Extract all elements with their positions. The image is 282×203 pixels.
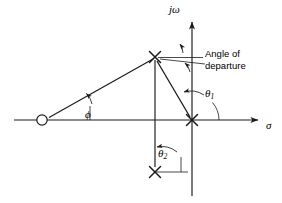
annotation-leader-line-secondary (160, 59, 205, 64)
marker-group (37, 52, 198, 178)
vector-group (49, 59, 190, 167)
diagram-canvas (0, 0, 282, 203)
theta1-arc (213, 103, 220, 121)
departure-arc-arrow-upper (180, 44, 183, 53)
pole-zero-diagram-figure: jω σ ϕ θ1 θ2 Angle of departure (0, 0, 282, 203)
theta1-angle-label: θ1 (205, 88, 214, 101)
theta1-arc-arrow (184, 91, 204, 95)
theta2-angle-label: θ2 (158, 148, 167, 161)
annotation-line-1: Angle of (205, 48, 246, 60)
real-axis-label: σ (266, 120, 271, 131)
zero-marker-icon (37, 115, 47, 125)
annotation-line-2: departure (205, 60, 246, 72)
vector-zero-to-upper-pole (49, 59, 153, 118)
angle-of-departure-leader-group (158, 44, 205, 72)
imaginary-axis-label: jω (169, 4, 180, 15)
angle-of-departure-annotation: Angle of departure (205, 48, 246, 71)
theta2-subscript: 2 (163, 152, 167, 161)
departure-arc-arrow-lower (185, 63, 190, 72)
vector-upper-pole-to-real-pole (157, 61, 190, 117)
phi-angle-label: ϕ (85, 109, 91, 120)
theta1-subscript: 1 (210, 92, 214, 101)
